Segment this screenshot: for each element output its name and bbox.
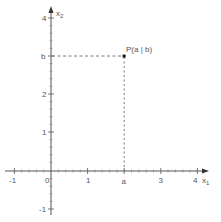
- y-tick-label: b: [41, 52, 46, 61]
- x-tick-label: 4: [193, 176, 198, 185]
- x-tick-label: 1: [86, 176, 91, 185]
- y-axis-arrow-icon: [49, 6, 54, 13]
- point-label: P(a | b): [126, 45, 152, 54]
- y-axis-label: x2: [56, 9, 64, 19]
- x-axis-label: x1: [202, 176, 210, 186]
- point-marker: [123, 55, 126, 58]
- y-tick-label: 1: [42, 128, 47, 137]
- y-tick-label: 2: [42, 90, 47, 99]
- x-axis-arrow-icon: [202, 169, 209, 174]
- coordinate-diagram: P(a | b) -1 0 1 a 3 4 -1 1 2 b 4 x1 x2: [0, 0, 221, 222]
- x-tick-label: -1: [9, 176, 17, 185]
- x-tick-label: a: [122, 177, 127, 186]
- y-tick-label: -1: [39, 205, 47, 214]
- y-tick-label: 4: [42, 14, 47, 23]
- x-tick-label: 0: [45, 176, 50, 185]
- x-tick-label: 3: [159, 176, 164, 185]
